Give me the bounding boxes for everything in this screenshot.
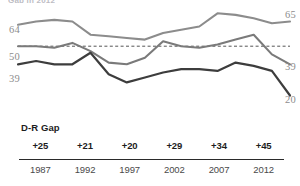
y-axis-label-right-20: 20	[285, 94, 296, 105]
x-axis-year-2012: 2012	[242, 164, 286, 175]
gap-value-2007: +34	[197, 140, 241, 151]
y-axis-label-right-65: 65	[285, 9, 296, 20]
x-axis-year-2007: 2007	[197, 164, 241, 175]
gap-value-1987: +25	[18, 140, 62, 151]
x-axis-year-1992: 1992	[63, 164, 107, 175]
chart-root: Gap in 2012 64 50 39 65 39 20 D-R Gap +2…	[0, 0, 300, 186]
gap-value-2012: +45	[242, 140, 286, 151]
gap-value-1997: +20	[108, 140, 152, 151]
gap-value-2002: +29	[152, 140, 196, 151]
x-axis-years-row: 198719921997200220072012	[18, 164, 286, 180]
line-chart-svg	[0, 6, 300, 118]
y-axis-label-left-39: 39	[9, 73, 20, 84]
gap-section-label: D-R Gap	[21, 122, 60, 133]
gap-values-row: +25+21+20+29+34+45	[18, 140, 286, 155]
y-axis-label-right-39: 39	[285, 61, 296, 72]
x-axis-year-1997: 1997	[108, 164, 152, 175]
gap-block: D-R Gap +25+21+20+29+34+45 1987199219972…	[0, 118, 300, 186]
y-axis-label-left-64: 64	[9, 24, 20, 35]
axis-rule	[19, 159, 284, 160]
plot-area: 64 50 39 65 39 20	[0, 6, 300, 118]
x-axis-year-2002: 2002	[152, 164, 196, 175]
x-axis-year-1987: 1987	[18, 164, 62, 175]
gap-value-1992: +21	[63, 140, 107, 151]
y-axis-label-left-50: 50	[9, 51, 20, 62]
series-line-independent	[18, 35, 290, 65]
series-line-republican	[18, 53, 290, 96]
series-lines	[18, 13, 290, 95]
chart-title-cropped: Gap in 2012	[8, 0, 55, 3]
